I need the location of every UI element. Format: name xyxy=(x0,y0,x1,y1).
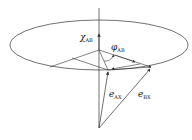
eBX-label: eBX xyxy=(138,89,151,100)
plane-line-inner xyxy=(115,55,135,62)
phi-angle-arc xyxy=(104,55,114,61)
chi-label: χAB xyxy=(79,32,93,43)
plane-line-center-bottom xyxy=(99,50,108,70)
phi-label: φAB xyxy=(111,42,125,53)
eAX-label: eAX xyxy=(109,89,122,100)
plane-line-diag xyxy=(72,58,108,70)
geometry-diagram: χAB φAB eAX eBX xyxy=(0,0,192,140)
